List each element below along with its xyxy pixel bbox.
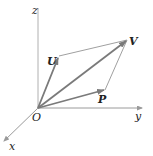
origin-label: O [32, 111, 41, 124]
z-axis-label: z [31, 4, 38, 17]
y-axis-label: y [134, 110, 142, 123]
vector-diagram: z y x O U V P [0, 0, 153, 156]
x-axis-label: x [9, 140, 16, 153]
p-label: P [97, 93, 107, 106]
u-label: U [47, 55, 58, 68]
vector-p [38, 90, 104, 108]
v-label: V [129, 35, 139, 48]
